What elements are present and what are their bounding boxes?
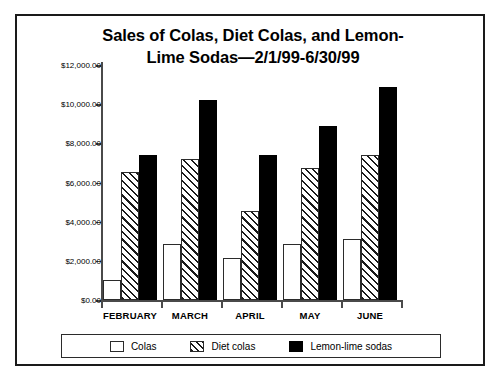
bar-group	[223, 65, 277, 300]
legend-label: Colas	[131, 341, 157, 352]
y-axis-tick-label: $0.00	[81, 296, 101, 305]
x-axis-category-label: APRIL	[235, 310, 265, 321]
chart-title-line-1: Sales of Colas, Diet Colas, and Lemon-	[57, 24, 449, 46]
x-axis-category-label: MARCH	[172, 310, 208, 321]
bar-lemon-lime-sodas-march[interactable]	[199, 100, 217, 300]
x-axis-tick	[341, 301, 343, 308]
bar-diet-colas-february[interactable]	[121, 172, 139, 300]
bar-colas-march[interactable]	[163, 244, 181, 300]
chart-legend: ColasDiet colasLemon-lime sodas	[61, 334, 441, 358]
bar-lemon-lime-sodas-february[interactable]	[139, 155, 157, 300]
bar-diet-colas-may[interactable]	[301, 168, 319, 300]
x-axis-tick	[221, 301, 223, 308]
bar-diet-colas-april[interactable]	[241, 211, 259, 300]
bar-colas-february[interactable]	[103, 280, 121, 300]
bar-group	[103, 65, 157, 300]
legend-item-colas[interactable]: Colas	[110, 341, 157, 352]
bar-colas-may[interactable]	[283, 244, 301, 300]
bar-group	[343, 65, 397, 300]
bar-group	[283, 65, 337, 300]
x-axis-tick	[281, 301, 283, 308]
y-axis-tick-label: $2,000.00	[65, 256, 101, 265]
legend-swatch-icon	[289, 341, 303, 352]
chart-frame: Sales of Colas, Diet Colas, and Lemon- L…	[15, 14, 485, 366]
chart-title: Sales of Colas, Diet Colas, and Lemon- L…	[57, 24, 449, 68]
x-axis-category-label: JUNE	[357, 310, 383, 321]
bar-diet-colas-march[interactable]	[181, 159, 199, 300]
x-axis-tick	[101, 301, 103, 308]
bar-lemon-lime-sodas-june[interactable]	[379, 87, 397, 300]
legend-label: Lemon-lime sodas	[310, 341, 392, 352]
y-axis-tick-label: $4,000.00	[65, 217, 101, 226]
y-axis-tick-label: $6,000.00	[65, 178, 101, 187]
bar-colas-april[interactable]	[223, 258, 241, 300]
bar-colas-june[interactable]	[343, 239, 361, 300]
x-axis-category-label: FEBRUARY	[103, 310, 157, 321]
bar-lemon-lime-sodas-may[interactable]	[319, 126, 337, 300]
x-axis-line	[101, 300, 403, 302]
legend-item-lemon-lime-sodas[interactable]: Lemon-lime sodas	[289, 341, 392, 352]
legend-item-diet-colas[interactable]: Diet colas	[190, 341, 255, 352]
y-axis-tick-label: $12,000.00	[61, 61, 101, 70]
y-axis-tick-label: $10,000.00	[61, 100, 101, 109]
x-axis-tick	[161, 301, 163, 308]
legend-swatch-icon	[110, 341, 124, 352]
legend-label: Diet colas	[211, 341, 255, 352]
x-axis-tick	[401, 301, 403, 308]
y-axis-tick-label: $8,000.00	[65, 139, 101, 148]
bar-lemon-lime-sodas-april[interactable]	[259, 155, 277, 300]
legend-swatch-icon	[190, 341, 204, 352]
bar-diet-colas-june[interactable]	[361, 155, 379, 300]
x-axis-category-label: MAY	[300, 310, 321, 321]
bar-group	[163, 65, 217, 300]
plot-area: $0.00$2,000.00$4,000.00$6,000.00$8,000.0…	[101, 65, 401, 300]
